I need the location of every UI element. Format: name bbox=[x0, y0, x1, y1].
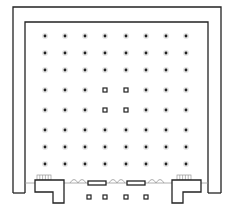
stair-icon bbox=[37, 175, 51, 180]
glass-panel bbox=[88, 181, 106, 185]
column-dot bbox=[125, 129, 128, 132]
column-dot bbox=[44, 69, 47, 72]
column-dot bbox=[185, 146, 188, 149]
column-dot bbox=[145, 89, 148, 92]
double-door-swing bbox=[109, 180, 125, 184]
column-dot bbox=[145, 146, 148, 149]
column-dot bbox=[84, 109, 87, 112]
glass-panel bbox=[127, 181, 145, 185]
column-square-marker bbox=[87, 195, 91, 199]
column-dot bbox=[165, 69, 168, 72]
column-dot bbox=[44, 52, 47, 55]
column-dot bbox=[185, 69, 188, 72]
column-dot bbox=[84, 52, 87, 55]
column-dot bbox=[64, 52, 67, 55]
column-dot bbox=[64, 146, 67, 149]
column-dot bbox=[104, 163, 107, 166]
column-dot bbox=[185, 35, 188, 38]
column-square-marker bbox=[103, 88, 107, 92]
column-dot bbox=[165, 129, 168, 132]
column-dot bbox=[125, 52, 128, 55]
column-dot bbox=[64, 129, 67, 132]
column-dot bbox=[165, 89, 168, 92]
column-dot bbox=[64, 109, 67, 112]
column-dot bbox=[145, 69, 148, 72]
column-dot bbox=[145, 109, 148, 112]
column-dot bbox=[185, 129, 188, 132]
column-square-marker bbox=[144, 195, 148, 199]
column-dot bbox=[84, 129, 87, 132]
column-dot bbox=[64, 89, 67, 92]
column-dot bbox=[84, 89, 87, 92]
column-dot bbox=[165, 146, 168, 149]
column-dot bbox=[125, 35, 128, 38]
column-dot bbox=[145, 163, 148, 166]
column-dot bbox=[44, 89, 47, 92]
column-dot bbox=[185, 89, 188, 92]
column-dot bbox=[44, 163, 47, 166]
column-dot bbox=[125, 146, 128, 149]
column-dot bbox=[64, 69, 67, 72]
column-square-marker bbox=[124, 108, 128, 112]
column-dot bbox=[165, 109, 168, 112]
column-dot bbox=[44, 146, 47, 149]
column-dot bbox=[145, 129, 148, 132]
column-dot bbox=[64, 35, 67, 38]
column-dot bbox=[104, 52, 107, 55]
double-door-swing bbox=[148, 180, 164, 184]
column-dot bbox=[64, 163, 67, 166]
column-dot bbox=[84, 163, 87, 166]
column-dot bbox=[104, 146, 107, 149]
column-square-marker bbox=[124, 88, 128, 92]
column-dot bbox=[185, 109, 188, 112]
column-dot bbox=[104, 35, 107, 38]
right-vestibule bbox=[172, 180, 201, 203]
column-dot bbox=[104, 69, 107, 72]
entry-vestibules bbox=[35, 180, 201, 203]
column-dot bbox=[145, 35, 148, 38]
column-dot bbox=[165, 52, 168, 55]
floor-plan bbox=[0, 0, 227, 213]
stair-icon bbox=[177, 175, 191, 180]
left-vestibule bbox=[35, 180, 64, 203]
column-dot bbox=[84, 35, 87, 38]
column-dot bbox=[125, 163, 128, 166]
column-dot bbox=[145, 52, 148, 55]
column-dot bbox=[185, 163, 188, 166]
column-dot bbox=[84, 146, 87, 149]
double-door-swing bbox=[70, 180, 86, 184]
column-dot bbox=[185, 52, 188, 55]
column-square-marker bbox=[103, 195, 107, 199]
column-square-marker bbox=[124, 195, 128, 199]
column-dot bbox=[165, 163, 168, 166]
column-dot bbox=[165, 35, 168, 38]
column-dot bbox=[104, 129, 107, 132]
column-dot bbox=[44, 129, 47, 132]
inner-wall bbox=[25, 22, 208, 180]
column-dot bbox=[44, 109, 47, 112]
column-dot bbox=[125, 69, 128, 72]
column-square-marker bbox=[103, 108, 107, 112]
column-dot bbox=[84, 69, 87, 72]
column-dot bbox=[44, 35, 47, 38]
column-grid bbox=[42, 33, 189, 199]
